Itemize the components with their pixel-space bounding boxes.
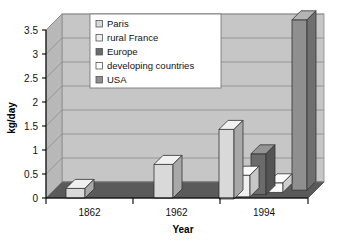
x-axis [46,198,308,204]
y-axis [42,30,46,198]
legend-label: Paris [107,18,129,29]
y-tick-label: 1 [32,145,38,156]
y-tick-label: 3.5 [24,25,38,36]
y-tick-label: 0.5 [24,169,38,180]
bar-chart: 0 0.5 1 1.5 2 2.5 3 3.5 kg/day [0,0,340,246]
chart-canvas: 0 0.5 1 1.5 2 2.5 3 3.5 kg/day [0,0,340,246]
legend-label: rural France [107,32,158,43]
legend-item-developing-countries[interactable]: developing countries [96,60,194,71]
x-axis-title: Year [172,224,193,235]
legend-swatch-usa [96,77,103,84]
legend-swatch-developing-countries [96,63,103,70]
legend-label: developing countries [107,60,194,71]
x-tick-labels: 1862 1962 1994 [78,207,275,218]
plot-left-wall [46,14,62,198]
chart-legend: Paris rural France Europe developing cou… [90,14,221,88]
y-tick-label: 1.5 [24,121,38,132]
y-tick-label: 3 [32,49,38,60]
y-tick-label: 2 [32,97,38,108]
legend-label: USA [107,74,127,85]
y-axis-title: kg/day [6,102,17,134]
bar-1994-paris [219,120,243,199]
bar-1994-usa [292,11,316,190]
y-tick-labels: 0 0.5 1 1.5 2 2.5 3 3.5 [24,25,38,204]
legend-swatch-europe [96,49,103,56]
x-tick-label: 1994 [253,207,276,218]
legend-swatch-paris [96,21,103,28]
bar-1962-paris [154,155,182,198]
y-tick-label: 0 [32,193,38,204]
y-tick-label: 2.5 [24,73,38,84]
legend-label: Europe [107,46,138,57]
legend-swatch-rural-france [96,35,103,42]
x-tick-label: 1862 [78,207,101,218]
x-tick-label: 1962 [165,207,188,218]
